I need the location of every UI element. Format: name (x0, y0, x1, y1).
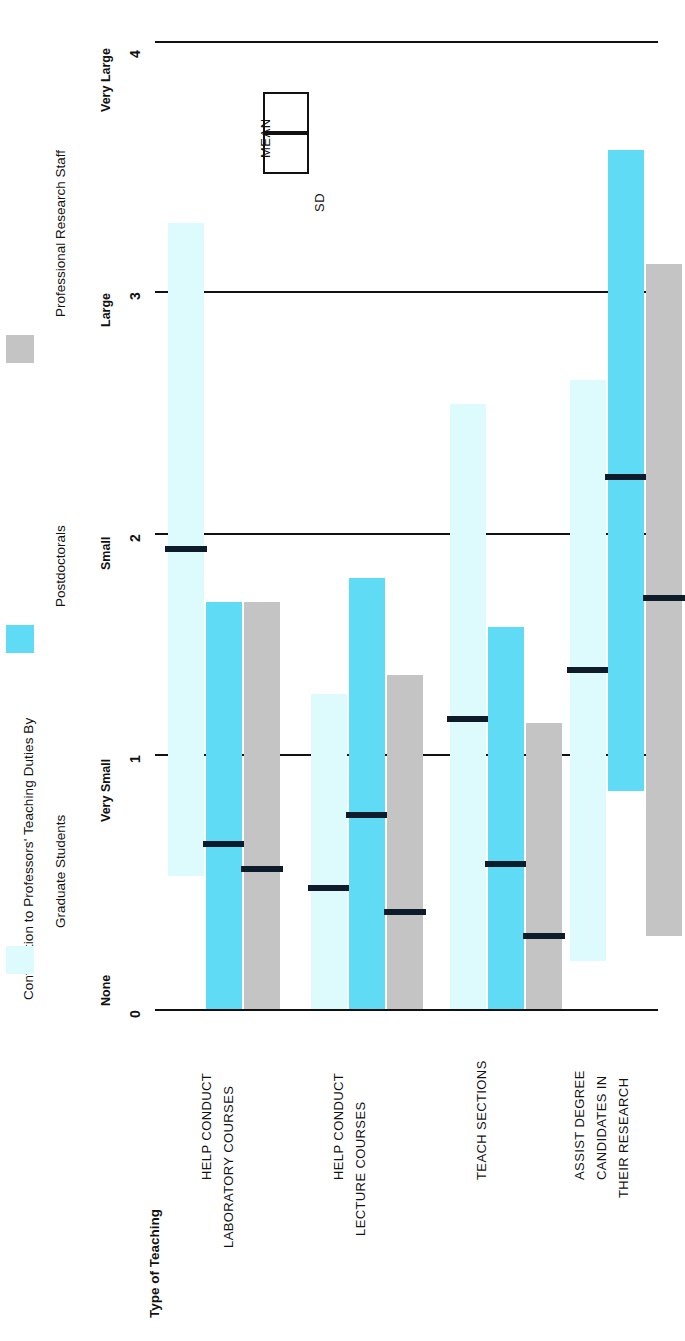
bar-0-2 (244, 602, 280, 1009)
bar-3-2 (646, 264, 682, 937)
category-axis-title: Type of Teaching (148, 1209, 162, 1318)
axis-tick-number-3: 3 (128, 292, 142, 300)
category-label-assist-line3: THEIR RESEARCH (617, 1078, 630, 1198)
axis-tick-number-4: 4 (128, 50, 142, 58)
gridline-3 (155, 291, 658, 293)
axis-tick-number-2: 2 (128, 534, 142, 542)
mean-marker-2-1 (485, 861, 527, 867)
legend-swatch-postdoctorals (6, 625, 34, 653)
gridline-2 (155, 533, 658, 535)
axis-tick-name-very-small: Very Small (100, 759, 113, 822)
category-label-assist-line1: ASSIST DEGREE (573, 1070, 586, 1180)
legend-label-professional-research-staff: Professional Research Staff (54, 150, 68, 317)
mean-marker-1-1 (346, 812, 388, 818)
mean-marker-1-0 (308, 885, 350, 891)
bar-2-0 (450, 404, 486, 1009)
axis-tick-name-large: Large (100, 293, 113, 327)
legend-swatch-professional-research-staff (6, 335, 34, 363)
bar-0-0 (168, 223, 204, 876)
category-label-teach-sections: TEACH SECTIONS (475, 1060, 488, 1180)
legend-swatch-graduate-students (6, 946, 34, 974)
axis-tick-number-1: 1 (128, 755, 142, 763)
bar-0-1 (206, 602, 242, 1009)
bar-2-1 (488, 627, 524, 1009)
mean-marker-2-2 (523, 933, 565, 939)
category-label-lecture-line2: LECTURE COURSES (354, 1101, 367, 1236)
category-label-lecture-line1: HELP CONDUCT (332, 1073, 345, 1180)
mean-marker-0-2 (241, 866, 283, 872)
legend-label-postdoctorals: Postdoctorals (54, 525, 68, 607)
key-label-mean: MEAN (259, 118, 272, 158)
mean-marker-3-2 (643, 595, 685, 601)
mean-marker-0-1 (203, 841, 245, 847)
bar-1-2 (387, 675, 423, 1009)
axis-tick-number-0: 0 (128, 1010, 142, 1018)
category-label-lab-line1: HELP CONDUCT (200, 1073, 213, 1180)
bar-3-0 (570, 380, 606, 961)
category-label-assist-line2: CANDIDATES IN (595, 1075, 608, 1180)
category-label-lab-line2: LABORATORY COURSES (222, 1086, 235, 1248)
bar-2-2 (526, 723, 562, 1009)
bar-1-0 (311, 694, 347, 1009)
mean-marker-2-0 (447, 716, 489, 722)
mean-marker-3-0 (567, 667, 609, 673)
bar-1-1 (349, 578, 385, 1009)
gridline-1 (155, 754, 658, 756)
mean-marker-3-1 (605, 474, 647, 480)
gridline-4 (155, 41, 658, 43)
axis-tick-name-very-large: Very Large (100, 48, 113, 112)
bar-3-1 (608, 150, 644, 791)
mean-marker-0-0 (165, 546, 207, 552)
legend-label-graduate-students: Graduate Students (54, 815, 68, 928)
key-label-sd: SD (313, 193, 326, 212)
axis-baseline-0 (155, 1009, 658, 1011)
mean-marker-1-2 (384, 909, 426, 915)
axis-tick-name-small: Small (100, 537, 113, 570)
axis-tick-name-none: None (100, 975, 113, 1006)
